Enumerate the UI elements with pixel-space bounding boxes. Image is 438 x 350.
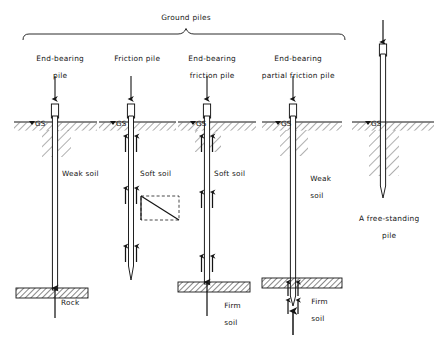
heading-line-1: End-bearing [188,54,236,63]
bearing-label-rock: Rock [61,299,101,308]
pile-shaft [52,116,57,290]
excavation-hatch-right [386,130,399,176]
bearing-label-line-2: soil [224,318,237,327]
heading-line-1: End-bearing [274,54,322,63]
heading-line-1: End-bearing [36,54,84,63]
soil-label-weak-soil: Weak soil [62,170,120,179]
gs-label: GS [196,119,207,128]
caption-line-1: A free-standing [359,214,419,223]
gs-marker-3: GS [180,111,214,137]
firm-soil-layer [178,282,250,292]
heading-end-bearing-pile: End-bearing pile [15,46,95,90]
gs-marker-5: GS [355,111,389,137]
bearing-label-firm-soil-col4: Firm soil [301,289,341,332]
gs-label: GS [35,119,46,128]
ground-piles-bracket-label: Ground piles [144,14,228,23]
bearing-label-line-1: Firm [311,297,328,306]
heading-line-2: friction pile [190,71,235,80]
distribution-hypotenuse [141,196,179,220]
firm-soil-layer [262,278,342,288]
gs-label: GS [371,119,382,128]
heading-line-2: pile [53,71,67,80]
soil-label-weak-soil-col4: Weak soil [300,166,340,209]
rock-layer [16,288,88,298]
soil-label-soft-soil-col3: Soft soil [214,170,270,179]
soil-label-line-2: soil [310,191,323,200]
pile-shaft [129,116,134,280]
heading-friction-pile: Friction pile [93,46,171,72]
soil-label-soft-soil-col2: Soft soil [140,170,196,179]
friction-distribution-diagram [141,196,179,220]
heading-end-bearing-friction-pile: End-bearing friction pile [167,46,247,90]
bearing-label-line-1: Firm [224,301,241,310]
soil-label-line-1: Weak [310,174,331,183]
heading-line-2: partial friction pile [262,71,335,80]
gs-marker-4: GS [265,111,299,137]
ground-piles-bracket [23,29,345,41]
diagram-canvas: Ground piles End-bearing pile Friction p… [0,0,438,350]
pile-shaft [204,116,209,284]
bearing-label-firm-soil-col3: Firm soil [214,293,254,336]
bearing-label-line-2: soil [311,314,324,323]
gs-marker-1: GS [19,111,53,137]
gs-label: GS [116,119,127,128]
caption-line-2: pile [382,231,396,240]
heading-end-bearing-partial-friction-pile: End-bearing partial friction pile [239,46,347,90]
pile-shaft [290,116,295,306]
heading-line-1: Friction pile [114,54,160,63]
gs-label: GS [281,119,292,128]
gs-marker-2: GS [100,111,134,137]
caption-free-standing-pile: A free-standing pile [338,206,430,249]
excavation-hatch-left [369,130,381,176]
excavation-hatch-right [58,130,71,157]
column-free-standing-pile [352,20,434,198]
